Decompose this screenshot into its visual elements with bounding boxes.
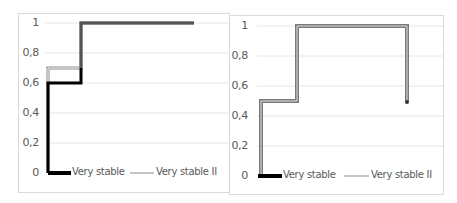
y-tick: 0,6 <box>15 76 39 89</box>
y-tick: 0,2 <box>15 136 39 149</box>
series-very-stable-ii <box>261 26 407 176</box>
y-tick: 0,4 <box>15 106 39 119</box>
y-tick: 0,4 <box>224 109 248 122</box>
y-tick: 0,8 <box>224 49 248 62</box>
series-very-stable-ii <box>48 23 194 173</box>
y-tick: 0,8 <box>15 46 39 59</box>
legend-label-very-stable-ii: Very stable II <box>371 169 432 180</box>
chart-left: 1 0,8 0,6 0,4 0,2 0 Very stable Very sta… <box>18 13 230 193</box>
y-tick: 0 <box>224 169 248 182</box>
y-tick: 1 <box>15 16 39 29</box>
y-tick: 0,6 <box>224 79 248 92</box>
legend-label-very-stable-ii: Very stable II <box>156 166 217 177</box>
series-very-stable-end-marker <box>405 100 409 104</box>
series-very-stable <box>48 23 194 173</box>
y-tick: 1 <box>224 19 248 32</box>
chart-right: 1 0,8 0,6 0,4 0,2 0 Very stable Very sta… <box>229 15 444 195</box>
legend-label-very-stable: Very stable <box>72 166 125 177</box>
y-tick: 0 <box>15 166 39 179</box>
legend-label-very-stable: Very stable <box>283 169 336 180</box>
gridlines <box>257 26 443 146</box>
y-tick: 0,2 <box>224 139 248 152</box>
